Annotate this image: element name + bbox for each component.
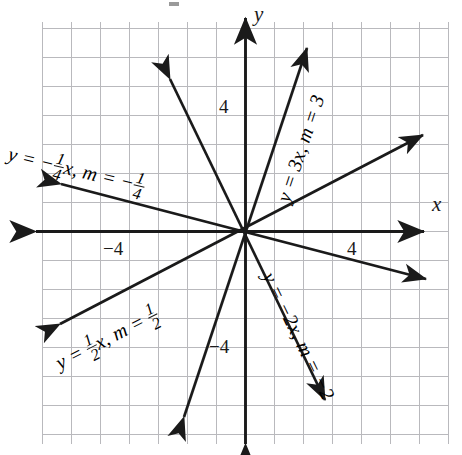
line-half-x	[60, 135, 423, 324]
coordinate-plane-svg	[0, 0, 462, 455]
y-axis-label: y	[254, 2, 263, 27]
y-tick-positive-4: 4	[219, 96, 229, 118]
x-axis-label: x	[432, 192, 441, 217]
lnq-p1: y =	[6, 143, 43, 172]
graph-figure: x y −4 4 4 −4 y = 3x, m = 3 y = −14x, m …	[0, 0, 462, 455]
x-tick-negative-4: −4	[103, 238, 123, 260]
x-tick-positive-4: 4	[347, 238, 357, 260]
lnq-den1: 4	[50, 165, 64, 183]
print-smudge	[169, 2, 179, 6]
y-tick-negative-4: −4	[209, 336, 229, 358]
